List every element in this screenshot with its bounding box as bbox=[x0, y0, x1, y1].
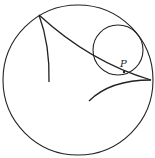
diagram-canvas bbox=[0, 0, 155, 158]
hypocycloid-arc-upper bbox=[39, 15, 151, 80]
outer-circle bbox=[3, 5, 153, 155]
point-p-label: P bbox=[120, 59, 127, 69]
hypocycloid-diagram: P bbox=[0, 0, 155, 158]
hypocycloid-arc-left bbox=[39, 15, 49, 82]
point-p-marker bbox=[123, 71, 125, 73]
hypocycloid-arc-lower bbox=[89, 80, 151, 101]
